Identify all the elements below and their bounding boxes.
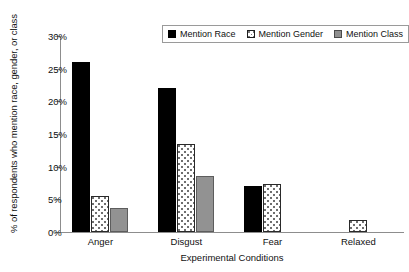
y-axis-tick-label: 10%: [48, 161, 54, 172]
legend-label-gender: Mention Gender: [259, 29, 324, 39]
bar-class-anger: [110, 208, 128, 232]
legend-label-race: Mention Race: [180, 29, 236, 39]
legend-item-class[interactable]: Mention Class: [334, 29, 403, 39]
bar-race-fear: [244, 186, 262, 232]
x-axis-label-anger: Anger: [60, 236, 140, 247]
bar-race-disgust: [158, 88, 176, 232]
y-axis-tick-label: 15%: [48, 129, 54, 140]
plot-area: 0%5%10%15%20%25%30% AngerDisgustFearRela…: [60, 36, 404, 232]
bar-class-disgust: [196, 176, 214, 232]
bar-gender-relaxed: [349, 220, 367, 232]
y-axis-tick-label: 30%: [48, 31, 54, 42]
y-axis-tick-label: 5%: [48, 194, 54, 205]
x-axis-label-relaxed: Relaxed: [318, 236, 398, 247]
x-axis-label-disgust: Disgust: [146, 236, 226, 247]
y-axis-tick-label: 0%: [48, 227, 54, 238]
bar-gender-disgust: [177, 144, 195, 232]
gray-filled-square-icon: [334, 30, 342, 38]
chart-legend: Mention Race Mention Gender Mention Clas…: [162, 25, 409, 43]
legend-item-race[interactable]: Mention Race: [168, 29, 236, 39]
bar-race-anger: [72, 62, 90, 232]
dotted-square-icon: [247, 30, 255, 38]
bar-gender-anger: [91, 196, 109, 232]
x-axis-label-fear: Fear: [232, 236, 312, 247]
black-filled-square-icon: [168, 30, 176, 38]
legend-item-gender[interactable]: Mention Gender: [247, 29, 324, 39]
x-axis-title: Experimental Conditions: [60, 252, 404, 263]
legend-label-class: Mention Class: [346, 29, 403, 39]
y-axis-tick-label: 20%: [48, 96, 54, 107]
x-axis-line: [60, 232, 404, 233]
bar-gender-fear: [263, 184, 281, 232]
y-axis-tick-label: 25%: [48, 63, 54, 74]
y-axis-title: % of respondents who mention race, gende…: [8, 0, 19, 255]
